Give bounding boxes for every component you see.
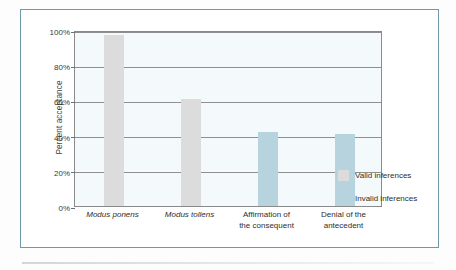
y-tick-mark — [71, 67, 75, 68]
bar-3 — [258, 132, 278, 206]
legend-swatch-icon — [338, 170, 349, 181]
plot-inner: 100%80%60%40%20%0% — [75, 32, 381, 206]
y-tick-label: 100% — [50, 28, 70, 37]
x-axis-label-4: Denial of the antecedent — [299, 210, 389, 231]
y-tick-mark — [71, 137, 75, 138]
y-tick-mark — [71, 32, 75, 33]
plot-area: 100%80%60%40%20%0% — [74, 31, 382, 207]
figure-container: Percent acceptance 100%80%60%40%20%0% Va… — [0, 0, 456, 270]
y-tick-mark — [71, 208, 75, 209]
gridline-100 — [75, 32, 381, 33]
y-tick-label: 20% — [54, 168, 70, 177]
y-tick-mark — [71, 102, 75, 103]
bottom-divider-rule — [22, 262, 435, 264]
bar-2 — [181, 99, 201, 206]
y-tick-label: 60% — [54, 98, 70, 107]
y-tick-label: 40% — [54, 133, 70, 142]
y-tick-mark — [71, 172, 75, 173]
y-tick-label: 80% — [54, 63, 70, 72]
legend-label: Invalid inferences — [355, 194, 417, 203]
legend-swatch-icon — [338, 193, 349, 204]
bar-1 — [104, 35, 124, 206]
bar-chart: Percent acceptance 100%80%60%40%20%0% Va… — [20, 9, 439, 248]
legend-label: Valid inferences — [355, 171, 411, 180]
y-axis-title: Percent acceptance — [55, 58, 64, 178]
